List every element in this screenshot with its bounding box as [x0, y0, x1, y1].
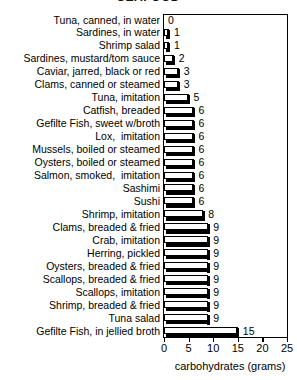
- bar-end-cap: [172, 56, 175, 66]
- bar-end-cap: [192, 147, 195, 157]
- bar-row: 6: [164, 171, 287, 184]
- bar-shadow: [166, 191, 195, 194]
- bar-end-cap: [207, 224, 210, 234]
- bar-face: [164, 210, 203, 217]
- x-axis-title: carbohydrates (grams): [163, 360, 297, 373]
- bar-face: [164, 172, 194, 179]
- bar-value-label: 6: [199, 118, 205, 129]
- bar-value-label: 3: [184, 66, 190, 77]
- category-label: Oysters, boiled or steamed: [0, 157, 160, 168]
- bar-row: 8: [164, 209, 287, 222]
- bar-value-label: 9: [213, 248, 219, 259]
- bar-face: [164, 120, 194, 127]
- bar-value-label: 15: [243, 326, 255, 337]
- bar-shadow: [166, 153, 195, 156]
- bar-end-cap: [207, 276, 210, 286]
- bar-end-cap: [192, 185, 195, 195]
- bar-end-cap: [207, 289, 210, 299]
- bar: [164, 236, 208, 243]
- bar-row: 6: [164, 196, 287, 209]
- category-label: Catfish, breaded: [0, 105, 160, 116]
- bar-value-label: 8: [208, 209, 214, 220]
- bar-shadow: [166, 127, 195, 130]
- bar-shadow: [166, 204, 195, 207]
- bar: [164, 68, 179, 75]
- bar-value-label: 6: [199, 196, 205, 207]
- bar-value-label: 9: [213, 313, 219, 324]
- bar-end-cap: [202, 211, 205, 221]
- bar-value-label: 9: [213, 235, 219, 246]
- bar: [164, 42, 169, 49]
- bar-end-cap: [167, 43, 170, 53]
- category-label: Sushi: [0, 196, 160, 207]
- bar-end-cap: [192, 198, 195, 208]
- bar: [164, 288, 208, 295]
- bar: [164, 29, 169, 36]
- bar-value-label: 3: [184, 79, 190, 90]
- category-label: Oysters, breaded & fried: [0, 261, 160, 272]
- bar-face: [164, 301, 208, 308]
- category-label: Scallops, breaded & fried: [0, 274, 160, 285]
- bar-row: 6: [164, 158, 287, 171]
- bar-row: 1: [164, 28, 287, 41]
- x-tick-label: 5: [177, 342, 201, 354]
- x-tick-label: 0: [152, 342, 176, 354]
- bar-value-label: 6: [199, 131, 205, 142]
- bar-shadow: [166, 308, 209, 311]
- bar-value-label: 6: [199, 105, 205, 116]
- bar: [164, 301, 208, 308]
- bar: [164, 249, 208, 256]
- bar-row: 9: [164, 235, 287, 248]
- category-label: Tuna, canned, in water: [0, 15, 160, 26]
- bar-row: 6: [164, 183, 287, 196]
- bar-shadow: [166, 114, 195, 117]
- bar-row: 9: [164, 313, 287, 326]
- bar-value-label: 1: [174, 40, 180, 51]
- bar-shadow: [166, 295, 209, 298]
- bar-shadow: [166, 256, 209, 259]
- category-label: Tuna salad: [0, 313, 160, 324]
- bar-end-cap: [192, 160, 195, 170]
- bar-value-label: 6: [199, 170, 205, 181]
- category-label: Clams, breaded & fried: [0, 222, 160, 233]
- bar-row: 2: [164, 54, 287, 67]
- bar-end-cap: [177, 82, 180, 92]
- bar: [164, 184, 194, 191]
- bar-end-cap: [192, 121, 195, 131]
- bar: [164, 94, 189, 101]
- category-axis-labels: Tuna, canned, in waterSardines, in water…: [0, 14, 160, 334]
- bar-value-label: 6: [199, 157, 205, 168]
- category-label: Gefilte Fish, sweet w/broth: [0, 118, 160, 129]
- bar-face: [164, 107, 194, 114]
- bar-value-label: 9: [213, 300, 219, 311]
- bar: [164, 146, 194, 153]
- bar-face: [164, 133, 194, 140]
- bar-shadow: [166, 179, 195, 182]
- category-label: Scallops, imitation: [0, 287, 160, 298]
- category-label: Salmon, smoked, imitation: [0, 170, 160, 181]
- bar-row: 9: [164, 287, 287, 300]
- x-tick-label: 15: [226, 342, 250, 354]
- category-label: Tuna, imitation: [0, 92, 160, 103]
- bar: [164, 197, 194, 204]
- bar-value-label: 9: [213, 274, 219, 285]
- bar-row: 9: [164, 300, 287, 313]
- category-label: Shrimp, breaded & fried: [0, 300, 160, 311]
- bar-end-cap: [207, 302, 210, 312]
- bar-row: 3: [164, 67, 287, 80]
- bar-value-label: 9: [213, 222, 219, 233]
- bar-end-cap: [187, 95, 190, 105]
- bar-end-cap: [207, 315, 210, 325]
- bar-row: 9: [164, 274, 287, 287]
- bar: [164, 172, 194, 179]
- bar-value-label: 6: [199, 183, 205, 194]
- bar-end-cap: [177, 69, 180, 79]
- bars-container: 01123356666666689999999915: [164, 15, 287, 337]
- bar: [164, 107, 194, 114]
- bar-shadow: [166, 140, 195, 143]
- bar-shadow: [166, 101, 190, 104]
- bar-face: [164, 236, 208, 243]
- x-tick-label: 10: [201, 342, 225, 354]
- bar: [164, 314, 208, 321]
- category-label: Mussels, boiled or steamed: [0, 144, 160, 155]
